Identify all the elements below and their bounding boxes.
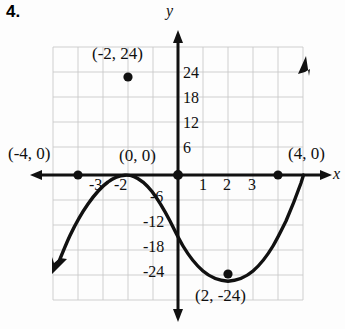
curve-arrow-right [298,56,310,76]
x-tick-minus2: -2 [114,176,127,194]
y-tick-12: 12 [183,114,199,132]
curve-arrow-left [52,257,67,274]
label-left-root: (-4, 0) [8,144,50,164]
point-max-vertex [123,72,132,81]
point-min-vertex [223,269,232,278]
y-tick-minus18: -18 [143,238,164,256]
figure-page: 4. [0,0,345,329]
point-origin [173,170,183,180]
label-max-vertex: (-2, 24) [92,44,143,64]
label-min-vertex: (2, -24) [195,286,246,306]
x-axis-label: x [333,165,340,183]
y-axis-label: y [166,2,173,20]
y-tick-6: 6 [183,139,191,157]
x-tick-minus3: -3 [89,176,102,194]
point-right-root [273,170,282,179]
graph-canvas [0,0,345,329]
y-tick-minus12: -12 [143,213,164,231]
label-origin: (0, 0) [119,146,156,166]
y-tick-18: 18 [183,89,199,107]
x-tick-3: 3 [248,176,256,194]
point-left-root [73,170,82,179]
y-tick-24: 24 [183,64,199,82]
y-tick-minus24: -24 [143,263,164,281]
y-tick-minus6: -6 [150,188,163,206]
label-right-root: (4, 0) [288,144,325,164]
x-tick-2: 2 [223,176,231,194]
x-tick-1: 1 [199,176,207,194]
